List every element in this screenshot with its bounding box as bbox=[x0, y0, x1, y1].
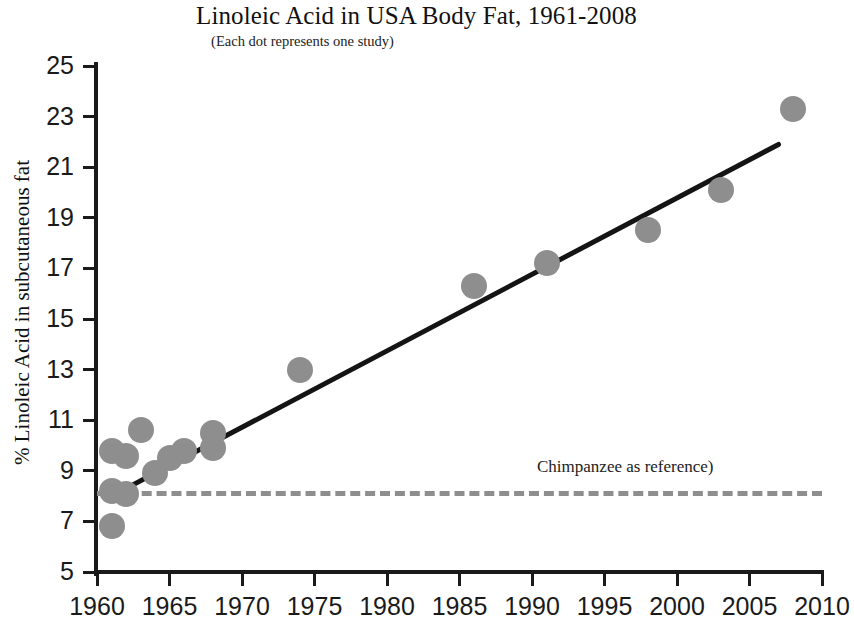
data-point bbox=[99, 513, 125, 539]
x-tick bbox=[748, 572, 751, 586]
x-tick bbox=[313, 572, 316, 586]
data-point bbox=[128, 417, 154, 443]
x-tick-label: 1970 bbox=[205, 594, 279, 619]
x-tick-label: 1965 bbox=[133, 594, 207, 619]
data-point bbox=[113, 481, 139, 507]
y-tick-label: 19 bbox=[14, 205, 74, 230]
x-tick bbox=[96, 572, 99, 586]
x-tick bbox=[241, 572, 244, 586]
y-tick-label: 17 bbox=[14, 255, 74, 280]
y-tick-label: 9 bbox=[14, 458, 74, 483]
y-tick-label: 7 bbox=[14, 508, 74, 533]
chimpanzee-reference-line bbox=[97, 491, 822, 496]
data-point bbox=[534, 250, 560, 276]
y-tick bbox=[83, 318, 97, 321]
y-tick bbox=[83, 520, 97, 523]
x-tick bbox=[676, 572, 679, 586]
x-tick-label: 2010 bbox=[785, 594, 854, 619]
data-point bbox=[113, 443, 139, 469]
x-tick bbox=[531, 572, 534, 586]
y-tick bbox=[83, 115, 97, 118]
y-tick bbox=[83, 267, 97, 270]
y-tick bbox=[83, 469, 97, 472]
chimpanzee-reference-label: Chimpanzee as reference) bbox=[537, 457, 714, 477]
y-tick bbox=[83, 216, 97, 219]
y-tick-label: 21 bbox=[14, 154, 74, 179]
y-tick-label: 23 bbox=[14, 104, 74, 129]
data-point bbox=[171, 438, 197, 464]
y-tick bbox=[83, 166, 97, 169]
data-point bbox=[635, 217, 661, 243]
x-tick bbox=[821, 572, 824, 586]
x-tick bbox=[458, 572, 461, 586]
x-tick-label: 1975 bbox=[278, 594, 352, 619]
y-tick bbox=[83, 368, 97, 371]
data-point bbox=[200, 435, 226, 461]
y-tick-label: 15 bbox=[14, 306, 74, 331]
data-point bbox=[461, 273, 487, 299]
x-tick-label: 1980 bbox=[350, 594, 424, 619]
y-tick-label: 11 bbox=[14, 407, 74, 432]
y-tick-label: 25 bbox=[14, 53, 74, 78]
x-tick bbox=[386, 572, 389, 586]
y-tick bbox=[83, 65, 97, 68]
y-tick-label: 13 bbox=[14, 357, 74, 382]
chart-title: Linoleic Acid in USA Body Fat, 1961-2008 bbox=[0, 2, 833, 30]
x-tick-label: 1990 bbox=[495, 594, 569, 619]
x-tick bbox=[168, 572, 171, 586]
x-tick-label: 1960 bbox=[60, 594, 134, 619]
data-point bbox=[780, 96, 806, 122]
data-point bbox=[708, 177, 734, 203]
x-tick bbox=[603, 572, 606, 586]
y-tick-label: 5 bbox=[14, 559, 74, 584]
data-point bbox=[287, 357, 313, 383]
x-tick-label: 1995 bbox=[568, 594, 642, 619]
x-tick-label: 2000 bbox=[640, 594, 714, 619]
chart-subtitle: (Each dot represents one study) bbox=[0, 33, 605, 50]
x-tick-label: 1985 bbox=[423, 594, 497, 619]
y-tick bbox=[83, 419, 97, 422]
x-tick-label: 2005 bbox=[713, 594, 787, 619]
